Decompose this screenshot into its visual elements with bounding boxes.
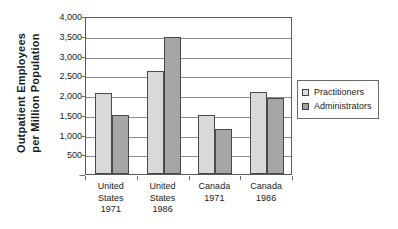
x-axis-category-line: 1971 xyxy=(85,204,137,216)
y-axis-title: Outpatient Employees per Million Populat… xyxy=(6,0,50,185)
y-axis-tick-label: 1,500 xyxy=(46,112,82,121)
x-axis-tick-mark xyxy=(137,176,138,180)
y-axis-tick-label: - xyxy=(46,171,82,180)
legend-swatch-icon xyxy=(302,89,309,96)
x-axis-category-label: Canada1971 xyxy=(189,181,241,204)
x-axis-category-line: 1971 xyxy=(189,193,241,205)
bar xyxy=(267,98,284,174)
x-axis-tick-mark xyxy=(292,176,293,180)
x-axis-tick-mark xyxy=(240,176,241,180)
bar xyxy=(215,129,232,174)
bar xyxy=(95,93,112,174)
y-axis-tick-label: 2,500 xyxy=(46,72,82,81)
legend-item[interactable]: Practitioners xyxy=(302,86,372,99)
x-axis-category-line: 1986 xyxy=(137,204,189,216)
y-axis-tick-mark xyxy=(81,76,85,77)
y-axis-tick-label: 2,000 xyxy=(46,92,82,101)
bar xyxy=(250,92,267,174)
y-axis-tick-mark xyxy=(81,136,85,137)
y-axis-tick-mark xyxy=(81,116,85,117)
bar-group xyxy=(241,18,293,174)
y-axis-tick-label: 3,500 xyxy=(46,33,82,42)
bar xyxy=(112,115,129,174)
x-axis-category-line: 1986 xyxy=(240,193,292,205)
legend-label: Administrators xyxy=(314,102,372,111)
y-axis-tick-mark xyxy=(81,17,85,18)
x-axis-category-line: United xyxy=(137,181,189,193)
bar xyxy=(198,115,215,174)
bar xyxy=(147,71,164,174)
y-axis-title-line-1: Outpatient Employees xyxy=(15,32,27,152)
bars-layer xyxy=(86,18,291,174)
bar-group xyxy=(138,18,190,174)
bar-group xyxy=(190,18,242,174)
x-axis-tick-mark xyxy=(85,176,86,180)
bar-chart: Outpatient Employees per Million Populat… xyxy=(0,0,398,229)
bar xyxy=(164,37,181,174)
y-axis-tick-mark xyxy=(81,155,85,156)
y-axis-title-line-2: per Million Population xyxy=(28,32,42,152)
x-axis-tick-labels: UnitedStates1971UnitedStates1986Canada19… xyxy=(85,181,292,227)
y-axis-tick-label: 4,000 xyxy=(46,13,82,22)
x-axis-category-line: United xyxy=(85,181,137,193)
y-axis-tick-mark xyxy=(81,37,85,38)
x-axis-category-line: States xyxy=(137,193,189,205)
x-axis-category-label: UnitedStates1971 xyxy=(85,181,137,216)
y-axis-tick-mark xyxy=(81,96,85,97)
y-axis-tick-label: 500 xyxy=(46,151,82,160)
chart-legend: PractitionersAdministrators xyxy=(297,80,379,119)
x-axis-category-label: Canada1986 xyxy=(240,181,292,204)
y-axis-tick-mark xyxy=(81,57,85,58)
x-axis-category-line: States xyxy=(85,193,137,205)
y-axis-tick-label: 1,000 xyxy=(46,132,82,141)
plot-area xyxy=(85,17,292,175)
x-axis-category-line: Canada xyxy=(240,181,292,193)
y-axis-tick-labels: 4,0003,5003,0002,5002,0001,5001,000500- xyxy=(46,10,82,180)
legend-item[interactable]: Administrators xyxy=(302,100,372,113)
y-axis-tick-label: 3,000 xyxy=(46,53,82,62)
x-axis-tick-mark xyxy=(189,176,190,180)
x-axis-category-label: UnitedStates1986 xyxy=(137,181,189,216)
x-axis-category-line: Canada xyxy=(189,181,241,193)
legend-label: Practitioners xyxy=(314,88,364,97)
bar-group xyxy=(86,18,138,174)
legend-swatch-icon xyxy=(302,103,309,110)
